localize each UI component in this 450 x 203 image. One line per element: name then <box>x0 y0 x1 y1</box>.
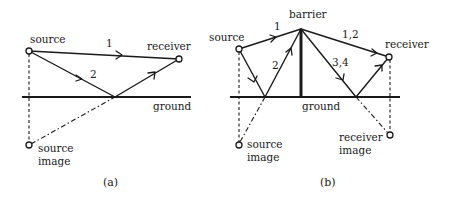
path-2-label: 2 <box>272 59 279 71</box>
path-1-label: 1 <box>274 20 281 32</box>
source-image-label-line2: image <box>247 151 280 163</box>
panel-a-caption: (a) <box>103 176 118 189</box>
path-2-reflected <box>115 59 179 97</box>
sound-propagation-diagram: source receiver ground 1 2 source image … <box>0 0 450 203</box>
source-image-label-line1: source <box>38 142 74 154</box>
ground-label: ground <box>302 100 341 112</box>
receiver-image-label-line2: image <box>339 144 372 156</box>
source-image-point <box>236 142 242 148</box>
receiver-image-ray <box>356 97 388 133</box>
path-1-label: 1 <box>106 37 113 49</box>
path-1-direct <box>29 51 179 59</box>
path-34-reflected <box>356 57 389 97</box>
receiver-point <box>176 56 182 62</box>
source-image-label-line1: source <box>247 138 283 150</box>
path-2-label: 2 <box>90 68 97 80</box>
path-12-label: 1,2 <box>342 28 359 40</box>
ground-label: ground <box>153 100 192 112</box>
barrier-label: barrier <box>289 8 328 20</box>
panel-b-caption: (b) <box>320 176 336 189</box>
image-ray <box>31 97 115 144</box>
receiver-label: receiver <box>385 38 430 50</box>
path-2-incident <box>239 49 265 97</box>
receiver-label: receiver <box>147 40 192 52</box>
source-point <box>26 48 32 54</box>
receiver-point <box>386 54 392 60</box>
source-point <box>236 46 242 52</box>
receiver-image-point <box>387 132 393 138</box>
source-image-label-line2: image <box>38 155 71 167</box>
panel-a: source receiver ground 1 2 source image … <box>22 33 192 189</box>
path-2-incident <box>29 51 115 97</box>
source-label: source <box>209 31 245 43</box>
path-34-label: 3,4 <box>332 56 349 68</box>
panel-b: barrier source receiver ground 1 2 1,2 3… <box>209 8 430 189</box>
receiver-image-label-line1: receiver <box>339 131 384 143</box>
source-image-ray <box>240 97 265 142</box>
source-image-point <box>26 142 32 148</box>
source-label: source <box>30 33 66 45</box>
